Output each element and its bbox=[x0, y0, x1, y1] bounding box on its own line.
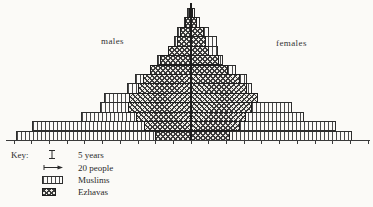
key-item-twenty-people: 20 people bbox=[0, 162, 200, 174]
ezhavas-male-bar bbox=[177, 36, 191, 46]
axis-tick bbox=[297, 141, 298, 144]
ezhavas-female-bar bbox=[191, 83, 248, 93]
ezhavas-male-bar bbox=[128, 102, 191, 112]
ezhavas-female-bar bbox=[191, 121, 240, 131]
scale-arrow-icon bbox=[42, 162, 64, 173]
key-item-label: 5 years bbox=[78, 150, 104, 160]
key-item-label: Ezhavas bbox=[78, 187, 108, 197]
ezhavas-female-bar bbox=[191, 65, 228, 75]
ezhavas-male-bar bbox=[168, 46, 191, 56]
ezhavas-female-bar bbox=[191, 102, 252, 112]
ezhavas-male-bar bbox=[143, 74, 191, 84]
axis-tick bbox=[155, 141, 156, 144]
key-item-label: 20 people bbox=[78, 163, 113, 173]
ezhavas-male-bar bbox=[150, 65, 191, 75]
ezhavas-male-bar bbox=[144, 121, 191, 131]
ezhavas-male-bar bbox=[136, 112, 190, 122]
cross-hatch-swatch-icon bbox=[42, 186, 64, 197]
ezhavas-male-bar bbox=[160, 55, 191, 65]
axis-tick bbox=[84, 141, 85, 144]
females-label: females bbox=[276, 38, 307, 48]
axis-tick bbox=[226, 141, 227, 144]
ezhavas-male-bar bbox=[129, 93, 190, 103]
axis-tick bbox=[261, 141, 262, 144]
ezhavas-female-bar bbox=[191, 36, 206, 46]
ezhavas-female-bar bbox=[191, 112, 246, 122]
axis-tick bbox=[138, 141, 139, 144]
males-label: males bbox=[101, 36, 124, 46]
ezhavas-female-bar bbox=[191, 27, 205, 37]
key-item-five-years: 5 years bbox=[0, 149, 200, 161]
axis-tick bbox=[332, 141, 333, 144]
axis-tick bbox=[244, 141, 245, 144]
axis-tick bbox=[14, 141, 15, 144]
ezhavas-female-bar bbox=[191, 74, 240, 84]
axis-tick bbox=[67, 141, 68, 144]
axis-tick bbox=[173, 141, 174, 144]
interval-bar-icon bbox=[42, 149, 64, 160]
population-pyramid-figure: males females Key: 5 years 20 people bbox=[0, 0, 373, 207]
axis-tick bbox=[49, 141, 50, 144]
axis-tick bbox=[191, 141, 192, 144]
ezhavas-female-bar bbox=[191, 55, 220, 65]
ezhavas-female-bar bbox=[191, 46, 210, 56]
pyramid-center-spine bbox=[190, 3, 192, 140]
ezhavas-female-bar bbox=[191, 93, 258, 103]
axis-tick bbox=[31, 141, 32, 144]
axis-tick bbox=[120, 141, 121, 144]
ezhavas-female-bar bbox=[191, 17, 198, 27]
key-item-muslims: Muslims bbox=[0, 174, 200, 186]
key-item-label: Muslims bbox=[78, 175, 110, 185]
vertical-hatch-swatch-icon bbox=[42, 174, 64, 185]
axis-tick bbox=[315, 141, 316, 144]
axis-tick bbox=[350, 141, 351, 144]
ezhavas-male-bar bbox=[138, 83, 191, 93]
axis-tick bbox=[102, 141, 103, 144]
axis-tick bbox=[368, 141, 369, 144]
axis-tick bbox=[279, 141, 280, 144]
key-item-ezhavas: Ezhavas bbox=[0, 186, 200, 198]
axis-tick bbox=[208, 141, 209, 144]
